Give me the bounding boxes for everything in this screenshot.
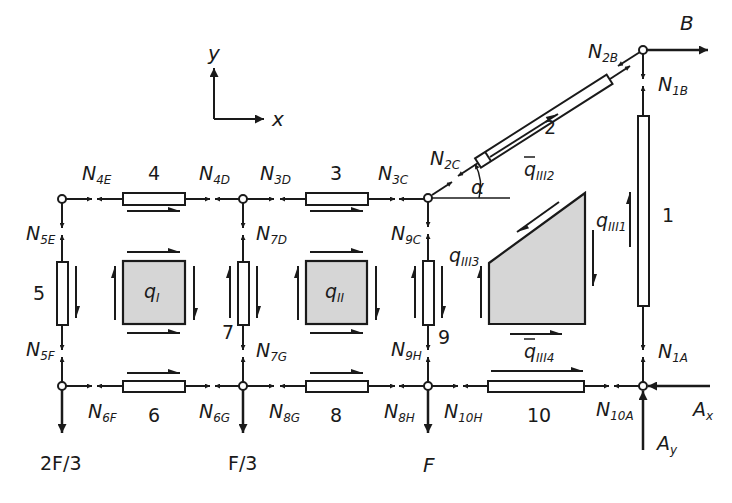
reaction-label-Ax: Ax	[691, 398, 714, 423]
member-9	[423, 261, 434, 325]
angle-label: α	[471, 175, 484, 199]
member-8	[306, 381, 368, 392]
force-label-N2B: N2B	[588, 40, 618, 65]
node-F	[58, 382, 66, 390]
load-label-2F3: 2F/3	[40, 452, 82, 474]
node-C	[424, 194, 432, 202]
member-label-2: 2	[544, 116, 556, 138]
node-B	[639, 46, 647, 54]
member-label-1: 1	[662, 204, 674, 226]
force-label-N5E: N5E	[26, 222, 56, 247]
force-label-N1B: N1B	[658, 73, 688, 98]
y-axis-label: y	[207, 41, 221, 65]
member-3	[306, 193, 368, 205]
member-label-7: 7	[222, 321, 234, 343]
node-G	[239, 382, 247, 390]
shear-label-qIII1: qIII1	[596, 209, 626, 234]
member-label-9: 9	[438, 326, 450, 348]
node-E	[58, 195, 66, 203]
force-label-N3C: N3C	[378, 162, 409, 187]
force-label-N9H: N9H	[391, 338, 422, 363]
force-label-N4E: N4E	[82, 162, 112, 187]
panel-III	[489, 193, 585, 324]
shear-label-qIII2: qIII2	[524, 158, 554, 183]
force-label-N3D: N3D	[260, 162, 291, 187]
force-label-N10A: N10A	[596, 398, 634, 423]
reaction-label-Ay: Ay	[655, 432, 678, 457]
force-label-N10H: N10H	[444, 400, 483, 425]
member-label-6: 6	[148, 404, 160, 426]
member-label-8: 8	[330, 404, 342, 426]
member-6	[123, 381, 185, 392]
member-5	[57, 262, 68, 325]
load-label-F: F	[423, 453, 435, 477]
force-label-N1A: N1A	[658, 340, 688, 365]
member-label-3: 3	[330, 162, 342, 184]
free-body-diagram: y x 4 3 2 1 5 7 9 6 8 10 N4E N4D N3D N3C…	[0, 0, 732, 503]
node-A	[639, 382, 647, 390]
force-label-N7G: N7G	[256, 339, 287, 364]
member-1	[638, 116, 649, 306]
force-label-N4D: N4D	[199, 162, 230, 187]
member-label-10: 10	[527, 404, 551, 426]
force-label-N7D: N7D	[256, 222, 287, 247]
force-label-N8G: N8G	[269, 400, 300, 425]
member-7	[238, 262, 249, 325]
member-label-4: 4	[148, 162, 160, 184]
member-10	[488, 381, 584, 392]
x-axis-label: x	[271, 107, 284, 131]
force-label-N8H: N8H	[384, 400, 415, 425]
node-D	[239, 195, 247, 203]
shear-label-qIII3: qIII3	[449, 244, 479, 269]
force-label-N5F: N5F	[26, 338, 56, 363]
shear-label-qIII4: qIII4	[524, 340, 554, 365]
force-label-N2C: N2C	[430, 147, 461, 172]
coordinate-axes	[214, 68, 264, 119]
node-H	[424, 382, 432, 390]
member-label-5: 5	[33, 282, 45, 304]
force-label-N9C: N9C	[391, 222, 422, 247]
load-label-B: B	[680, 11, 694, 35]
load-label-F3: F/3	[228, 452, 257, 474]
force-label-N6G: N6G	[199, 400, 230, 425]
member-4	[123, 193, 185, 205]
force-label-N6F: N6F	[88, 400, 118, 425]
